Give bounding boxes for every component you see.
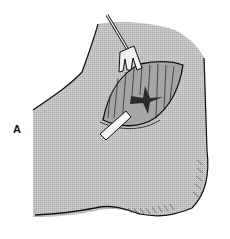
surgical-illustration [0,0,230,239]
panel-label: A [13,123,21,135]
